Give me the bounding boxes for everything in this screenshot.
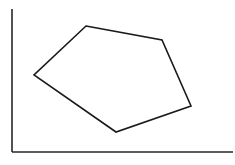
diagram-canvas — [0, 0, 235, 165]
pentagon-shape — [34, 26, 191, 132]
figure-container — [0, 0, 235, 165]
